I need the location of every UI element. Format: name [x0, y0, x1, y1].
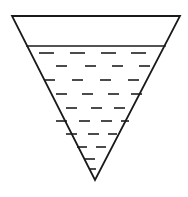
container-interior	[12, 16, 180, 180]
diagram-canvas	[0, 0, 188, 197]
inverted-cone-diagram	[0, 0, 188, 197]
